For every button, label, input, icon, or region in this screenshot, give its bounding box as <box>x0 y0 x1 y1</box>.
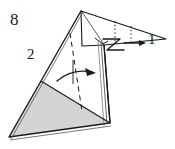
layered-edge-2 <box>101 42 107 124</box>
curved-fold-arrow-head <box>85 68 96 76</box>
origami-figure: 8 2 1 <box>0 0 175 149</box>
fold-label-one: 1 <box>148 32 156 47</box>
origami-diagram-svg <box>0 0 175 149</box>
layered-edge-1 <box>104 45 110 123</box>
step-number-label: 8 <box>10 11 19 28</box>
layered-edge-3 <box>98 40 104 126</box>
fold-label-two: 2 <box>27 47 35 62</box>
